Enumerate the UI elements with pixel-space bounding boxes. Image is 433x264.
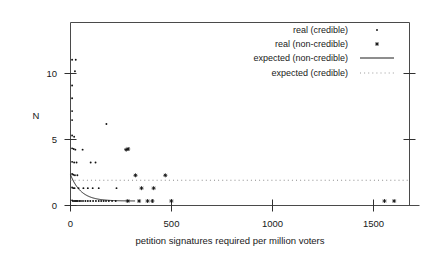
y-tick-label-0: 0 (52, 200, 57, 211)
y-tick-label-5: 5 (52, 134, 57, 145)
data-point-dot (74, 70, 76, 72)
plot-canvas: 0 5 10 0 500 1000 1500 N petition signat… (0, 0, 433, 264)
data-point-dot (98, 200, 100, 202)
data-point-dot (76, 174, 78, 176)
data-point-dot (108, 200, 110, 202)
data-point-dot (87, 187, 89, 189)
data-point-dot (76, 162, 78, 164)
scatter-plot-figure: 0 5 10 0 500 1000 1500 N petition signat… (0, 0, 433, 264)
legend-label-real-credible: real (credible) (293, 25, 348, 35)
y-axis-title: N (33, 110, 40, 121)
data-point-star (140, 186, 144, 190)
x-tick-label-0: 0 (68, 218, 73, 229)
data-point-star (150, 199, 154, 203)
data-point-dot (73, 162, 75, 164)
legend-marker-star-icon (375, 42, 379, 46)
data-point-dot (71, 84, 73, 86)
y-tick-label-10: 10 (46, 68, 57, 79)
data-point-dot (115, 200, 117, 202)
data-point-star (133, 173, 137, 177)
x-tick-label-1500: 1500 (363, 218, 384, 229)
data-point-dot (92, 200, 94, 202)
data-point-dot (82, 200, 84, 202)
legend-label-real-non-credible: real (non-credible) (275, 39, 348, 49)
data-point-star (126, 147, 130, 151)
data-point-dot (100, 200, 102, 202)
data-point-dot (73, 136, 75, 138)
x-axis-title: petition signatures required per million… (135, 235, 324, 246)
data-point-dot (82, 187, 84, 189)
legend-label-expected-non-credible: expected (non-credible) (253, 53, 348, 63)
data-point-dot (103, 200, 105, 202)
data-point-dot (105, 123, 107, 125)
data-point-dot (105, 200, 107, 202)
legend-star-glyph (375, 42, 379, 46)
data-point-star (146, 199, 150, 203)
data-point-dot (87, 200, 89, 202)
data-point-dot (71, 59, 73, 61)
data-point-dot (92, 187, 94, 189)
legend-marker-dot-icon (376, 29, 378, 31)
data-point-dot (98, 187, 100, 189)
data-point-dot (90, 162, 92, 164)
data-point-dot (95, 162, 97, 164)
data-point-dot (116, 187, 118, 189)
data-point-dot (71, 135, 73, 137)
data-point-dot (82, 149, 84, 151)
data-point-dot (71, 110, 73, 112)
x-tick-label-500: 500 (164, 218, 180, 229)
data-point-dot (74, 149, 76, 151)
data-point-star (152, 186, 156, 190)
data-point-dot (71, 161, 73, 163)
data-point-dot (111, 200, 113, 202)
legend-label-expected-credible: expected (credible) (271, 68, 348, 78)
data-point-dot (80, 200, 82, 202)
data-point-dot (78, 187, 80, 189)
data-point-dot (95, 200, 97, 202)
data-point-dot (74, 174, 76, 176)
data-point-dot (77, 200, 79, 202)
data-point-dot (71, 97, 73, 99)
data-point-dot (75, 59, 77, 61)
data-point-star (137, 199, 141, 203)
data-point-dot (71, 119, 73, 121)
data-point-dot (84, 200, 86, 202)
data-point-star (382, 199, 386, 203)
data-point-star (169, 199, 173, 203)
data-point-star (392, 199, 396, 203)
data-point-dot (74, 187, 76, 189)
data-point-dot (71, 147, 73, 149)
x-tick-label-1000: 1000 (262, 218, 283, 229)
data-point-star (163, 173, 167, 177)
data-point-dot (89, 200, 91, 202)
